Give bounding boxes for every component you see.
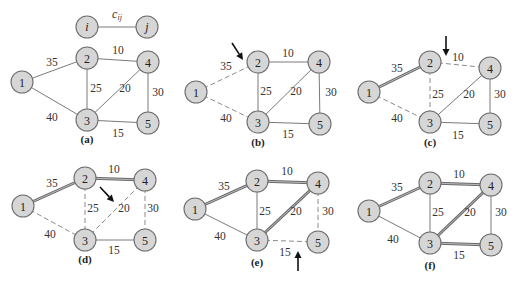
edge-weight-label: 15 — [453, 249, 465, 261]
edge-weight-label: 20 — [118, 202, 130, 214]
node-label: 2 — [255, 56, 261, 70]
edge-weight-label: 10 — [108, 163, 120, 175]
panel-caption: (f) — [425, 259, 436, 272]
edge-weight-label: 40 — [44, 228, 56, 240]
node-label: 5 — [487, 118, 493, 132]
edge-weight-label: 40 — [220, 112, 232, 124]
graph-panels: 3540102520301512345(a)354010252030151234… — [11, 36, 507, 272]
edge-weight-label: 30 — [147, 202, 159, 214]
edge-weight-label: 10 — [112, 44, 124, 56]
panel-caption: (c) — [424, 136, 437, 149]
edge-weight-label: 15 — [279, 246, 291, 258]
node-label: 2 — [427, 177, 433, 191]
svg-text:i: i — [85, 20, 88, 34]
node-label: 3 — [84, 114, 90, 128]
node-3: 3 — [419, 111, 441, 133]
node-label: 5 — [145, 117, 151, 131]
edge-weight-label: 30 — [495, 206, 507, 218]
edge-weight-label: 40 — [387, 233, 399, 245]
node-label: 4 — [145, 56, 151, 70]
node-label: 1 — [20, 200, 26, 214]
node-label: 4 — [315, 177, 321, 191]
edge-weight-label: 35 — [391, 62, 403, 74]
edge-weight-label: 25 — [90, 82, 102, 94]
edge-weight-label: 20 — [290, 85, 302, 97]
legend: cij i j — [76, 7, 158, 38]
node-label: 5 — [488, 239, 494, 253]
node-label: 4 — [487, 62, 493, 76]
node-label: 2 — [82, 172, 88, 186]
node-2: 2 — [74, 167, 96, 189]
panel-caption: (b) — [251, 136, 265, 149]
node-label: 2 — [84, 52, 90, 66]
edge-weight-label: 10 — [282, 47, 294, 59]
node-2: 2 — [246, 170, 268, 192]
edge-weight-label: 35 — [218, 180, 230, 192]
node-label: 3 — [255, 116, 261, 130]
legend-edge-weight-label: cij — [112, 7, 123, 22]
edge-weight-label: 30 — [152, 86, 164, 98]
panel-caption: (a) — [81, 133, 94, 146]
node-1: 1 — [11, 71, 33, 93]
node-label: 2 — [254, 175, 260, 189]
node-1: 1 — [12, 195, 34, 217]
node-2: 2 — [419, 51, 441, 73]
edge-weight-label: 25 — [259, 205, 271, 217]
node-5: 5 — [307, 231, 329, 253]
node-label: 3 — [427, 237, 433, 251]
edge-weight-label: 10 — [452, 51, 464, 63]
node-5: 5 — [134, 229, 156, 251]
node-label: 5 — [317, 118, 323, 132]
node-label: 1 — [366, 86, 372, 100]
node-label: 3 — [254, 234, 260, 248]
node-1: 1 — [358, 200, 380, 222]
node-label: 1 — [19, 76, 25, 90]
node-3: 3 — [246, 229, 268, 251]
panel-caption: (e) — [251, 256, 264, 269]
edge-weight-label: 20 — [119, 82, 131, 94]
node-5: 5 — [137, 112, 159, 134]
node-label: 5 — [315, 236, 321, 250]
node-label: 4 — [488, 179, 494, 193]
node-label: 4 — [316, 56, 322, 70]
node-3: 3 — [247, 111, 269, 133]
panel-caption: (d) — [78, 253, 92, 266]
node-4: 4 — [134, 169, 156, 191]
arrow-icon — [100, 187, 114, 202]
edge-weight-label: 15 — [282, 128, 294, 140]
mst-diagram: cij i j 3540102520301512345(a)3540102520… — [0, 0, 514, 287]
node-4: 4 — [307, 172, 329, 194]
edge-weight-label: 40 — [46, 111, 58, 123]
node-label: 2 — [427, 56, 433, 70]
arrow-icon — [232, 43, 243, 60]
node-4: 4 — [479, 57, 501, 79]
edge-weight-label: 20 — [463, 88, 475, 100]
node-4: 4 — [308, 51, 330, 73]
edge-weight-label: 40 — [391, 112, 403, 124]
graph-panel-b: 3540102520301512345(b) — [185, 43, 337, 149]
mst-diagram-stage: cij i j 3540102520301512345(a)3540102520… — [0, 0, 514, 287]
edge-weight-label: 30 — [494, 88, 506, 100]
graph-panel-a: 3540102520301512345(a) — [11, 44, 164, 146]
node-1: 1 — [184, 198, 206, 220]
edge-weight-label: 10 — [453, 168, 465, 180]
edge-weight-label: 25 — [432, 206, 444, 218]
edge-weight-label: 25 — [432, 88, 444, 100]
node-label: 3 — [82, 234, 88, 248]
node-3: 3 — [76, 109, 98, 131]
legend-node-i: i — [76, 16, 98, 38]
graph-panel-e: 3540102520301512345(e) — [184, 165, 334, 271]
node-1: 1 — [358, 81, 380, 103]
edge-weight-label: 20 — [290, 205, 302, 217]
node-2: 2 — [76, 47, 98, 69]
node-label: 4 — [142, 174, 148, 188]
node-5: 5 — [309, 113, 331, 135]
node-5: 5 — [479, 113, 501, 135]
arrow-icon — [443, 36, 450, 56]
node-label: 5 — [142, 234, 148, 248]
edge-weight-label: 35 — [46, 56, 58, 68]
edge-weight-label: 30 — [325, 86, 337, 98]
node-label: 1 — [193, 86, 199, 100]
node-label: 1 — [192, 203, 198, 217]
graph-panel-f: 3540102520301512345(f) — [358, 168, 507, 272]
